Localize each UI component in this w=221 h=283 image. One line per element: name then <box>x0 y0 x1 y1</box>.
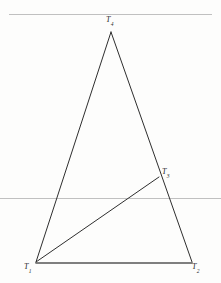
vertex-label-t2-base: T <box>192 262 196 271</box>
vertex-label-t4: T4 <box>106 16 113 26</box>
triangle-right-side <box>111 32 192 262</box>
figure-canvas <box>0 0 221 283</box>
vertex-label-t4-base: T <box>106 15 110 24</box>
vertex-label-t1-base: T <box>24 262 28 271</box>
vertex-label-t4-subscript: 4 <box>111 21 114 27</box>
vertex-label-t3-base: T <box>162 167 166 176</box>
vertex-label-t3: T3 <box>162 168 169 178</box>
triangle-left-side <box>36 32 111 262</box>
cevian-segment <box>36 177 159 262</box>
geometric-figure: T4 T3 T1 T2 <box>0 0 221 283</box>
vertex-label-t2: T2 <box>192 263 199 273</box>
vertex-label-t1: T1 <box>24 263 31 273</box>
vertex-label-t3-subscript: 3 <box>167 173 170 179</box>
vertex-label-t2-subscript: 2 <box>197 268 200 274</box>
vertex-label-t1-subscript: 1 <box>29 268 32 274</box>
